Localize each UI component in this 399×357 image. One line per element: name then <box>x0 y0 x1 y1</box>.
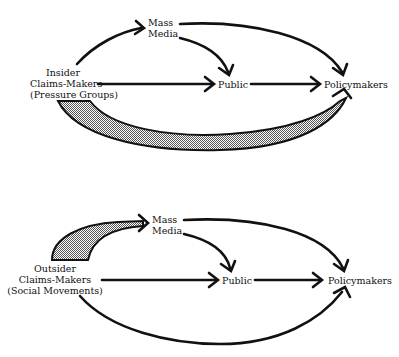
media-to-public-arrow <box>180 38 228 72</box>
source-line-3: (Pressure Groups) <box>30 89 96 100</box>
media-line-2: Media <box>152 225 182 236</box>
source-line-3: (Social Movements) <box>6 285 104 296</box>
public-label: Public <box>222 275 252 286</box>
media-line-1: Mass <box>152 214 182 225</box>
insider-to-media-arrow <box>77 28 141 64</box>
mass-media-label: Mass Media <box>148 17 178 39</box>
insider-to-policymakers-band <box>58 98 346 150</box>
source-line-2: Claims-Makers <box>6 274 104 285</box>
media-line-2: Media <box>148 28 178 39</box>
media-to-public-arrow <box>184 234 230 268</box>
insider-claims-makers-label: Insider Claims-Makers (Pressure Groups) <box>30 67 96 100</box>
policymakers-label: Policymakers <box>328 275 392 286</box>
outsider-claims-makers-label: Outsider Claims-Makers (Social Movements… <box>6 263 104 296</box>
mass-media-label: Mass Media <box>152 214 182 236</box>
source-line-1: Outsider <box>6 263 104 274</box>
outsider-to-media-band <box>52 221 143 260</box>
policymakers-label: Policymakers <box>324 79 388 90</box>
arrowhead-icon <box>333 89 351 98</box>
public-label: Public <box>218 79 248 90</box>
source-line-2: Claims-Makers <box>30 78 96 89</box>
claims-makers-diagram <box>0 0 399 357</box>
outsider-to-policymakers-arrow <box>80 292 342 344</box>
source-line-1: Insider <box>30 67 96 78</box>
media-line-1: Mass <box>148 17 178 28</box>
